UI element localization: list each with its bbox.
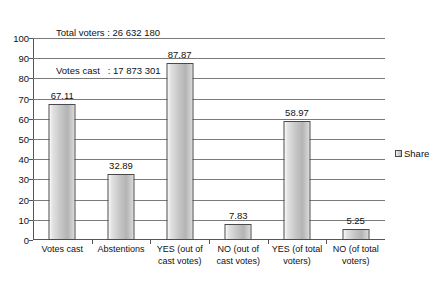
plot-area: 0102030405060708090100 67.1132.8987.877.… bbox=[33, 38, 385, 240]
bar-value-label: 5.25 bbox=[346, 215, 365, 226]
bar-value-label: 67.11 bbox=[51, 90, 74, 101]
bar[interactable] bbox=[49, 104, 76, 240]
y-axis-tick-label: 100 bbox=[13, 33, 29, 44]
category-label-line: YES (of total bbox=[266, 244, 328, 256]
category-label-line: Votes cast bbox=[31, 244, 93, 256]
y-axis-tick-label: 60 bbox=[18, 113, 29, 124]
x-axis-category-labels: Votes castAbstentionsYES (out ofcast vot… bbox=[33, 244, 385, 284]
bar-group: 67.11 bbox=[33, 38, 92, 240]
x-axis-category-label: Abstentions bbox=[90, 244, 152, 256]
bars-layer: 67.1132.8987.877.8358.975.25 bbox=[33, 38, 385, 240]
bar[interactable] bbox=[166, 63, 193, 240]
chart-legend: Share bbox=[395, 148, 429, 159]
bar[interactable] bbox=[342, 229, 369, 240]
bar-group: 5.25 bbox=[326, 38, 385, 240]
y-axis-tick-mark bbox=[29, 240, 33, 241]
y-axis-tick-label: 40 bbox=[18, 154, 29, 165]
x-axis-category-label: Votes cast bbox=[31, 244, 93, 256]
x-axis-category-label: NO (of totalvoters) bbox=[325, 244, 387, 267]
bar[interactable] bbox=[107, 174, 134, 240]
x-axis-category-label: NO (out ofcast votes) bbox=[207, 244, 269, 267]
bar-group: 87.87 bbox=[150, 38, 209, 240]
category-label-line: voters) bbox=[266, 256, 328, 268]
y-axis-tick-label: 80 bbox=[18, 73, 29, 84]
legend-swatch-icon bbox=[395, 150, 402, 157]
bar-value-label: 32.89 bbox=[109, 160, 133, 171]
bar-value-label: 7.83 bbox=[229, 210, 248, 221]
bar-group: 32.89 bbox=[92, 38, 151, 240]
x-axis-category-label: YES (of totalvoters) bbox=[266, 244, 328, 267]
category-label-line: NO (of total bbox=[325, 244, 387, 256]
category-label-line: YES (out of bbox=[149, 244, 211, 256]
legend-label-share: Share bbox=[404, 148, 429, 159]
category-label-line: cast votes) bbox=[207, 256, 269, 268]
y-axis-tick-label: 10 bbox=[18, 214, 29, 225]
bar[interactable] bbox=[283, 121, 310, 240]
y-axis-tick-label: 20 bbox=[18, 194, 29, 205]
category-label-line: NO (out of bbox=[207, 244, 269, 256]
y-axis-tick-label: 70 bbox=[18, 93, 29, 104]
y-axis-tick-label: 50 bbox=[18, 134, 29, 145]
bar-value-label: 58.97 bbox=[285, 107, 309, 118]
x-axis-category-label: YES (out ofcast votes) bbox=[149, 244, 211, 267]
bar-group: 58.97 bbox=[268, 38, 327, 240]
category-label-line: voters) bbox=[325, 256, 387, 268]
bar-chart-figure: Total voters : 26 632 180 Votes cast : 1… bbox=[0, 0, 444, 288]
bar[interactable] bbox=[225, 224, 252, 240]
category-label-line: cast votes) bbox=[149, 256, 211, 268]
y-axis-tick-label: 30 bbox=[18, 174, 29, 185]
y-axis-tick-label: 90 bbox=[18, 53, 29, 64]
bar-value-label: 87.87 bbox=[168, 49, 192, 60]
bar-group: 7.83 bbox=[209, 38, 268, 240]
category-label-line: Abstentions bbox=[90, 244, 152, 256]
